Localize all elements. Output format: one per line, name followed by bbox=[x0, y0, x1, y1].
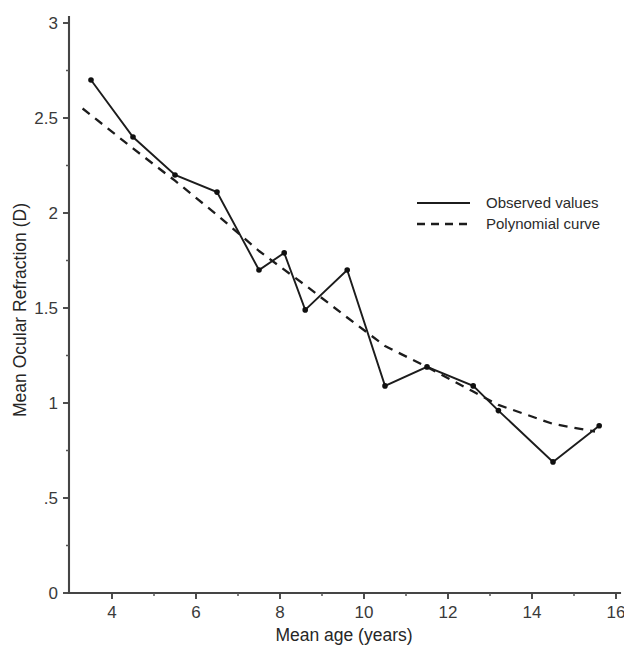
data-point-marker bbox=[214, 189, 220, 195]
x-tick-label: 12 bbox=[439, 603, 458, 622]
y-tick-label: 3 bbox=[49, 14, 58, 33]
x-tick-label: 8 bbox=[275, 603, 284, 622]
x-axis-title: Mean age (years) bbox=[275, 625, 412, 645]
data-point-marker bbox=[256, 267, 262, 273]
y-axis-title: Mean Ocular Refraction (D) bbox=[10, 203, 30, 417]
refraction-vs-age-chart: 0.511.522.53 46810121416 Mean age (years… bbox=[0, 0, 624, 649]
data-point-marker bbox=[496, 408, 502, 414]
legend-label-observed-values: Observed values bbox=[486, 194, 599, 211]
data-point-marker bbox=[172, 172, 178, 178]
y-tick-label: 2 bbox=[49, 204, 58, 223]
x-tick-label: 10 bbox=[355, 603, 374, 622]
x-tick-label: 16 bbox=[607, 603, 624, 622]
y-tick-label: .5 bbox=[44, 489, 58, 508]
data-point-marker bbox=[344, 267, 350, 273]
data-point-marker bbox=[424, 364, 430, 370]
data-point-marker bbox=[302, 307, 308, 313]
x-tick-label: 4 bbox=[107, 603, 116, 622]
chart-background bbox=[0, 0, 624, 649]
chart-figure: 0.511.522.53 46810121416 Mean age (years… bbox=[0, 0, 624, 649]
data-point-marker bbox=[88, 77, 94, 83]
data-point-marker bbox=[550, 459, 556, 465]
data-point-marker bbox=[470, 383, 476, 389]
y-tick-label: 0 bbox=[49, 584, 58, 603]
y-tick-label: 1 bbox=[49, 394, 58, 413]
x-tick-label: 14 bbox=[523, 603, 542, 622]
data-point-marker bbox=[281, 250, 287, 256]
data-point-marker bbox=[596, 423, 602, 429]
y-tick-label: 1.5 bbox=[34, 299, 58, 318]
data-point-marker bbox=[382, 383, 388, 389]
x-tick-label: 6 bbox=[191, 603, 200, 622]
y-tick-label: 2.5 bbox=[34, 109, 58, 128]
data-point-marker bbox=[130, 134, 136, 140]
legend-label-polynomial-curve: Polynomial curve bbox=[486, 215, 600, 232]
